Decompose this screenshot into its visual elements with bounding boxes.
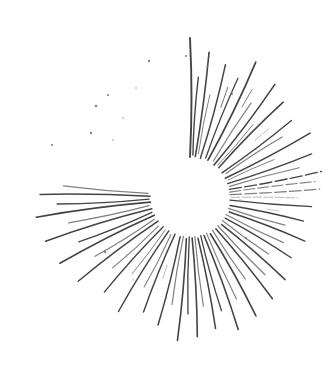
ink-speckle — [239, 199, 241, 201]
ink-speckle — [245, 237, 247, 239]
ink-speckle — [95, 105, 98, 108]
sunburst-illustration — [0, 0, 329, 371]
ink-speckle — [135, 87, 137, 89]
ink-speckle — [122, 117, 124, 119]
ink-speckle — [112, 139, 114, 141]
ink-speckle — [104, 251, 106, 253]
ink-speckle — [107, 94, 109, 96]
ink-speckle — [90, 132, 92, 134]
ink-speckle — [51, 144, 53, 146]
ink-speckle — [206, 65, 208, 67]
ink-speckle — [165, 297, 167, 299]
ink-speckle — [148, 60, 150, 62]
sunburst-artboard — [0, 0, 329, 371]
ink-speckle — [185, 55, 187, 57]
ink-speckle — [231, 93, 233, 95]
ink-speckle — [132, 279, 134, 281]
